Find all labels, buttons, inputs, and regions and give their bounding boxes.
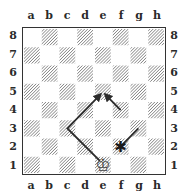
square-a8[interactable] [23, 28, 41, 46]
square-b7[interactable] [41, 46, 59, 64]
square-g7[interactable] [131, 47, 147, 63]
square-e7[interactable] [95, 47, 111, 63]
square-e2[interactable] [94, 138, 112, 156]
square-e6[interactable] [94, 65, 112, 83]
square-g1[interactable] [131, 157, 147, 173]
square-h8[interactable] [148, 29, 164, 45]
rank-label-8: 8 [7, 30, 19, 42]
rank-label-6: 6 [168, 67, 180, 79]
white-king-icon[interactable]: ♔ [95, 155, 110, 174]
rank-label-6: 6 [7, 67, 19, 79]
square-d3[interactable] [76, 119, 94, 137]
square-a1[interactable] [24, 157, 40, 173]
square-f7[interactable] [112, 46, 130, 64]
file-label-a: a [22, 10, 40, 22]
square-f1[interactable] [112, 156, 130, 174]
square-b3[interactable] [41, 119, 59, 137]
file-label-d: d [76, 10, 94, 22]
rank-label-4: 4 [7, 104, 19, 116]
square-c8[interactable] [59, 28, 77, 46]
square-h7[interactable] [147, 46, 165, 64]
rank-label-5: 5 [168, 86, 180, 98]
square-b6[interactable] [42, 66, 58, 82]
rank-label-1: 1 [168, 160, 180, 172]
square-e3[interactable] [95, 120, 111, 136]
file-label-e: e [94, 180, 112, 192]
rank-label-1: 1 [7, 160, 19, 172]
square-d7[interactable] [76, 46, 94, 64]
square-h3[interactable] [147, 119, 165, 137]
file-label-h: h [148, 180, 166, 192]
square-c1[interactable] [60, 157, 76, 173]
square-g4[interactable] [130, 101, 148, 119]
square-a7[interactable] [24, 47, 40, 63]
square-d5[interactable] [76, 83, 94, 101]
square-c7[interactable] [60, 47, 76, 63]
file-label-f: f [112, 180, 130, 192]
square-h2[interactable] [148, 139, 164, 155]
file-label-a: a [22, 180, 40, 192]
square-h5[interactable] [147, 83, 165, 101]
file-label-b: b [40, 10, 58, 22]
square-c5[interactable] [60, 84, 76, 100]
file-label-c: c [58, 180, 76, 192]
rank-label-8: 8 [168, 30, 180, 42]
rank-label-2: 2 [7, 141, 19, 153]
square-f8[interactable] [113, 29, 129, 45]
rank-label-3: 3 [168, 123, 180, 135]
board-canvas: ✱ ♔ [23, 28, 165, 174]
file-label-d: d [76, 180, 94, 192]
square-b2[interactable] [42, 139, 58, 155]
square-g8[interactable] [130, 28, 148, 46]
asterisk-icon: ✱ [114, 138, 127, 156]
rank-label-7: 7 [7, 49, 19, 61]
file-label-h: h [148, 10, 166, 22]
rank-label-7: 7 [168, 49, 180, 61]
square-f6[interactable] [113, 66, 129, 82]
square-h4[interactable] [148, 102, 164, 118]
square-d6[interactable] [77, 66, 93, 82]
square-c4[interactable] [59, 101, 77, 119]
file-label-b: b [40, 180, 58, 192]
square-b5[interactable] [41, 83, 59, 101]
square-a6[interactable] [23, 65, 41, 83]
square-a2[interactable] [23, 138, 41, 156]
square-h6[interactable] [148, 66, 164, 82]
square-g6[interactable] [130, 65, 148, 83]
square-b8[interactable] [42, 29, 58, 45]
square-a5[interactable] [24, 84, 40, 100]
square-h1[interactable] [147, 156, 165, 174]
file-label-f: f [112, 10, 130, 22]
square-a3[interactable] [24, 120, 40, 136]
square-d1[interactable] [76, 156, 94, 174]
file-label-e: e [94, 10, 112, 22]
rank-label-4: 4 [168, 104, 180, 116]
rank-label-2: 2 [168, 141, 180, 153]
square-c2[interactable] [59, 138, 77, 156]
square-e4[interactable] [94, 101, 112, 119]
square-f3[interactable] [112, 119, 130, 137]
square-e8[interactable] [94, 28, 112, 46]
rank-label-3: 3 [7, 123, 19, 135]
square-markers: ✱ [114, 138, 127, 156]
chess-board: ✱ ♔ [22, 27, 166, 175]
square-a4[interactable] [23, 101, 41, 119]
file-label-c: c [58, 10, 76, 22]
rank-label-5: 5 [7, 86, 19, 98]
file-label-g: g [130, 180, 148, 192]
square-b4[interactable] [42, 102, 58, 118]
square-c6[interactable] [59, 65, 77, 83]
square-d8[interactable] [77, 29, 93, 45]
square-g2[interactable] [130, 138, 148, 156]
square-g5[interactable] [131, 84, 147, 100]
square-b1[interactable] [41, 156, 59, 174]
square-f5[interactable] [112, 83, 130, 101]
file-label-g: g [130, 10, 148, 22]
board-pieces: ♔ [95, 155, 110, 174]
